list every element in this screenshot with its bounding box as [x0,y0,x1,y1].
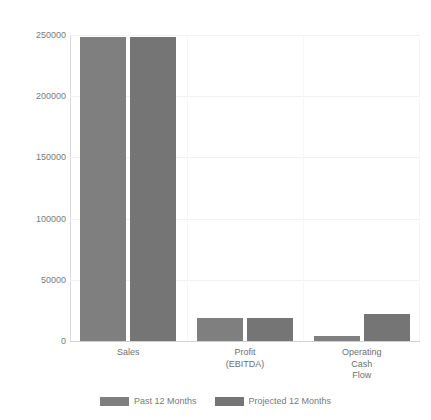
y-axis-tick-label: 250000 [4,30,66,40]
legend-label: Past 12 Months [134,396,197,406]
bar-group [80,35,176,341]
y-axis-tick-label: 150000 [4,152,66,162]
x-axis-category-label: Sales [70,347,187,359]
legend-swatch-icon [215,397,244,406]
bar-group [314,35,410,341]
legend-item[interactable]: Projected 12 Months [215,396,332,406]
bar-group [197,35,293,341]
legend-swatch-icon [100,397,129,406]
bar-chart: 050000100000150000200000250000 SalesProf… [0,0,431,420]
y-axis-tick-label: 0 [4,336,66,346]
x-axis-category-label: Profit (EBITDA) [187,347,304,370]
y-axis-tick-labels: 050000100000150000200000250000 [0,0,66,420]
bar[interactable] [247,318,293,341]
chart-legend: Past 12 MonthsProjected 12 Months [0,396,431,406]
legend-label: Projected 12 Months [249,396,332,406]
x-axis-category-label: Operating Cash Flow [303,347,420,382]
y-axis-tick-label: 100000 [4,214,66,224]
y-axis-tick-label: 200000 [4,91,66,101]
bar[interactable] [130,37,176,341]
bar[interactable] [80,37,126,341]
gridline-vertical [303,35,304,341]
bar[interactable] [197,318,243,341]
plot-area [70,35,420,341]
bar[interactable] [364,314,410,341]
y-axis-tick-label: 50000 [4,275,66,285]
gridline-vertical [419,35,420,341]
legend-item[interactable]: Past 12 Months [100,396,197,406]
gridline-vertical [187,35,188,341]
x-axis-line [70,341,420,342]
